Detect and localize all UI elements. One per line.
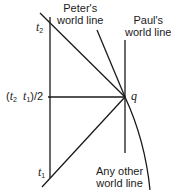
midpoint-label: (t2 t1)/2 xyxy=(6,90,43,106)
paul-label: Paul's world line xyxy=(125,14,171,38)
peter-label: Peter's world line xyxy=(57,2,103,26)
midpoint-t2-sub: 2 xyxy=(13,96,17,103)
t1-sub: 1 xyxy=(41,172,45,179)
t1-label: t1 xyxy=(38,166,45,182)
t2-label: t2 xyxy=(36,21,43,37)
peter-label-line1: Peter's xyxy=(57,2,103,14)
paul-label-line1: Paul's xyxy=(125,14,171,26)
other-label-line2: world line xyxy=(96,177,143,189)
t2-sub: 2 xyxy=(39,27,43,34)
midpoint-close: )/2 xyxy=(30,90,43,102)
peter-world-line xyxy=(97,30,125,97)
paul-label-line2: world line xyxy=(125,26,171,38)
peter-label-line2: world line xyxy=(57,14,103,26)
other-label: Any other world line xyxy=(96,165,143,189)
event-q-label: q xyxy=(131,90,137,102)
other-label-line1: Any other xyxy=(96,165,143,177)
